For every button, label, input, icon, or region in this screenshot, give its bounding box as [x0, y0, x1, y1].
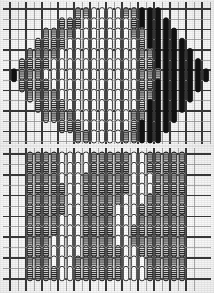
- figure-root: Panel A - lens-shaped occupancy Panel B …: [0, 0, 214, 293]
- panel-top-capsules: [0, 0, 214, 146]
- panel-bottom: Panel B - rectangular array occupancy: [0, 146, 214, 293]
- panel-bottom-capsules: [0, 146, 214, 293]
- panel-top: Panel A - lens-shaped occupancy: [0, 0, 214, 146]
